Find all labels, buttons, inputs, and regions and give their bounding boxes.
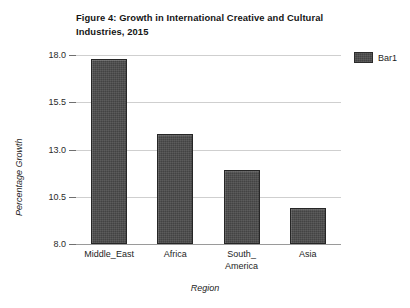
xtick-label-asia: Asia (275, 249, 341, 261)
ytick-mark-10-5 (69, 197, 76, 198)
ytick-mark-15-5 (69, 102, 76, 103)
ytick-label-13: 13.0 (48, 145, 66, 155)
y-axis-title-text: Percentage Growth (14, 86, 24, 216)
bar-middle-east[interactable] (91, 59, 127, 244)
plot-area: 18.0 15.5 13.0 10.5 8.0 (76, 55, 341, 244)
gridline-18 (76, 55, 341, 56)
ytick-mark-18 (69, 55, 76, 56)
xtick-label-south-america: South_ America (209, 249, 275, 272)
ytick-mark-8 (69, 244, 76, 245)
bar-asia[interactable] (290, 208, 326, 244)
ytick-mark-13 (69, 150, 76, 151)
chart-title: Figure 4: Growth in International Creati… (76, 11, 342, 39)
xtick-label-middle-east: Middle_East (76, 249, 142, 261)
ytick-label-10-5: 10.5 (48, 192, 66, 202)
bar-south-america[interactable] (224, 170, 260, 244)
ytick-label-18: 18.0 (48, 50, 66, 60)
bar-africa[interactable] (157, 134, 193, 244)
ytick-label-8: 8.0 (53, 239, 66, 249)
ytick-label-15-5: 15.5 (48, 97, 66, 107)
legend-swatch-bar1 (354, 52, 373, 63)
legend[interactable]: Bar1 (354, 52, 397, 63)
axis-baseline (76, 244, 341, 245)
legend-label-bar1: Bar1 (378, 53, 397, 63)
xtick-label-africa: Africa (142, 249, 208, 261)
y-axis-title: Percentage Growth (14, 0, 28, 86)
x-axis-title: Region (0, 283, 410, 293)
